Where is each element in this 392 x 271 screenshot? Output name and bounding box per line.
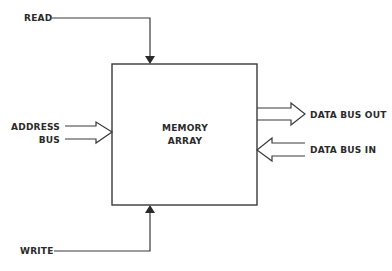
write-arrowhead-icon [145, 205, 155, 213]
write-line [54, 212, 150, 251]
memory-array-diagram: MEMORY ARRAY READ WRITE ADDRESS BUS DATA… [0, 0, 392, 271]
address-label-line2: BUS [39, 135, 60, 145]
data-bus-out-label: DATA BUS OUT [310, 110, 387, 120]
write-label: WRITE [20, 246, 54, 256]
read-signal: READ [24, 13, 155, 64]
data-bus-in-label: DATA BUS IN [310, 145, 376, 155]
data-bus-out-arrow-icon [257, 103, 305, 125]
address-label-line1: ADDRESS [11, 122, 60, 132]
write-signal: WRITE [20, 205, 155, 256]
data-bus-in: DATA BUS IN [257, 138, 376, 161]
memory-array-block [112, 64, 257, 205]
block-label-line2: ARRAY [168, 136, 203, 146]
read-label: READ [24, 13, 52, 23]
address-bus-arrow-icon [65, 122, 112, 143]
read-line [52, 18, 150, 58]
block-label-line1: MEMORY [162, 123, 208, 133]
diagram-canvas: MEMORY ARRAY READ WRITE ADDRESS BUS DATA… [0, 0, 392, 271]
address-bus: ADDRESS BUS [11, 122, 112, 145]
data-bus-in-arrow-icon [257, 138, 305, 161]
data-bus-out: DATA BUS OUT [257, 103, 387, 125]
read-arrowhead-icon [145, 56, 155, 64]
